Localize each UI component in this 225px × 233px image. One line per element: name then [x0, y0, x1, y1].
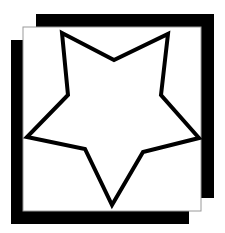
star-illustration [0, 0, 225, 233]
star-frame-graphic [0, 0, 225, 233]
